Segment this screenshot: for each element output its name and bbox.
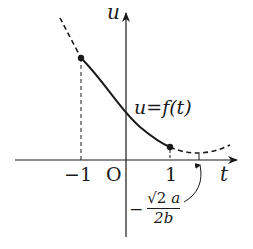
- curve-dashed-right: [170, 145, 230, 153]
- vertex-numerator: √2 a: [147, 191, 180, 206]
- graph-canvas: [0, 0, 253, 249]
- u-axis-label: u: [107, 2, 120, 22]
- endpoint-one: [167, 144, 173, 150]
- vertex-fraction: √2 a 2b: [147, 191, 180, 226]
- vertex-pointer-arrow: [184, 165, 201, 202]
- curve-dashed-left: [60, 18, 81, 58]
- vertex-label: − √2 a 2b: [129, 191, 180, 226]
- t-axis-label: t: [220, 164, 228, 184]
- function-graph-figure: u t O −1 1 u=f(t) − √2 a 2b: [0, 0, 253, 249]
- origin-label: O: [106, 165, 122, 184]
- vertex-denominator: 2b: [147, 211, 180, 226]
- tick-label-one: 1: [165, 165, 177, 184]
- endpoint-neg-one: [78, 55, 84, 61]
- tick-label-neg-one: −1: [64, 165, 92, 184]
- vertex-label-sign: −: [129, 199, 143, 219]
- curve-label: u=f(t): [134, 98, 192, 117]
